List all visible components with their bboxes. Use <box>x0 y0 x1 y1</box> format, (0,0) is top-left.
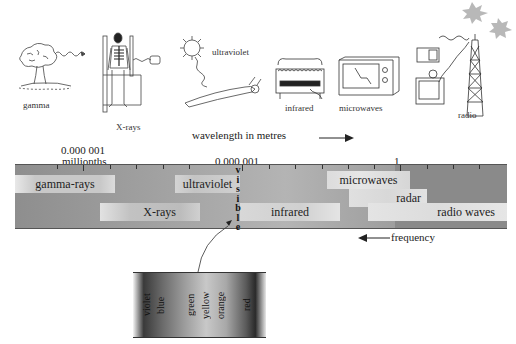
tick <box>57 165 58 169</box>
band-microwaves: microwaves <box>327 171 410 189</box>
wavelength-axis-label: wavelength in metres <box>192 129 286 141</box>
frequency-label: frequency <box>391 231 435 243</box>
label-gamma: gamma <box>23 100 50 110</box>
tick <box>189 165 190 169</box>
xray-person-icon <box>98 30 168 130</box>
band-gamma-rays: gamma-rays <box>15 175 115 193</box>
tick <box>348 165 349 169</box>
label-infrared: infrared <box>285 103 313 113</box>
colour-red: red <box>241 277 253 333</box>
arrow-right-icon <box>319 133 355 143</box>
colour-violet: violet <box>141 277 153 333</box>
label-xrays: X-rays <box>116 122 141 132</box>
wavelength-label: wavelength in metres <box>192 129 286 141</box>
decorative-splash-icon <box>460 0 516 40</box>
band-radio-waves: radio waves <box>368 203 507 221</box>
colour-yellow: yellow <box>200 277 212 333</box>
tick <box>453 165 454 169</box>
label-radio: radio <box>458 110 477 120</box>
arrow-left-icon <box>358 233 390 243</box>
label-ultraviolet: ultraviolet <box>212 47 249 57</box>
pointer-curve-icon <box>196 214 256 274</box>
tick <box>295 165 296 169</box>
tick <box>136 165 137 169</box>
colour-orange: orange <box>215 277 227 333</box>
tick <box>479 165 480 169</box>
tick <box>269 165 270 169</box>
band-x-rays: X-rays <box>100 203 200 221</box>
electric-heater-icon <box>274 55 334 105</box>
tick-major <box>83 165 84 171</box>
colour-blue: blue <box>155 277 167 333</box>
microwave-oven-icon <box>337 56 401 104</box>
mushroom-cloud-icon <box>15 42 95 102</box>
tick <box>322 165 323 169</box>
tick <box>374 165 375 169</box>
tick <box>110 165 111 169</box>
label-microwaves: microwaves <box>339 103 382 113</box>
band-ultraviolet: ultraviolet <box>175 175 240 193</box>
radio-tv-tower-icon <box>413 30 493 120</box>
colour-green: green <box>185 277 197 333</box>
spectrum-band: gamma-rays ultraviolet microwaves radar … <box>15 164 507 229</box>
tick <box>163 165 164 169</box>
tick <box>427 165 428 169</box>
visible-spectrum-strip: violet blue green yellow orange red <box>133 272 266 338</box>
